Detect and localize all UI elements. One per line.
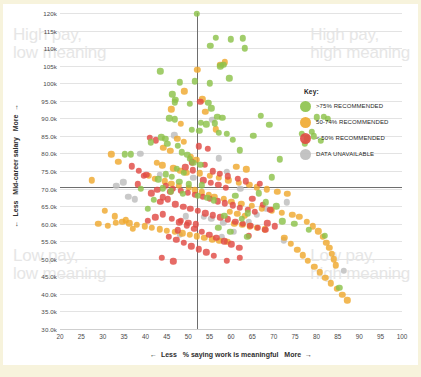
data-point	[148, 190, 154, 196]
data-point	[196, 246, 202, 252]
data-point	[277, 156, 283, 162]
data-point	[202, 210, 208, 216]
data-point	[108, 151, 114, 157]
reference-line-horizontal	[60, 187, 402, 188]
gridline-horizontal	[60, 83, 402, 84]
data-point	[262, 227, 268, 233]
data-point	[268, 174, 274, 180]
data-point	[273, 203, 279, 209]
legend-item[interactable]: 50-74% RECOMMENDED	[300, 114, 418, 130]
y-axis-less-label: Less	[12, 201, 19, 217]
y-axis-tick-label: 55.0k	[19, 238, 57, 245]
y-axis-tick-label: 115k	[19, 27, 57, 34]
data-point	[120, 179, 126, 185]
data-point	[291, 221, 297, 227]
legend-swatch-icon	[300, 117, 311, 128]
data-point	[203, 121, 209, 127]
x-axis-tick-label: 75	[292, 333, 299, 340]
data-point	[168, 106, 174, 112]
gridline-horizontal	[60, 294, 402, 295]
data-point	[197, 99, 203, 105]
data-point	[236, 255, 242, 261]
gridline-horizontal	[60, 66, 402, 67]
data-point	[190, 160, 196, 166]
data-point	[247, 223, 253, 229]
y-axis-more-label: More	[12, 115, 19, 132]
legend-item-label: < 50% RECOMMENDED	[316, 135, 385, 141]
data-point	[216, 155, 222, 161]
data-point	[264, 220, 270, 226]
x-axis-less-label: Less	[161, 351, 177, 358]
data-point	[215, 224, 221, 230]
x-axis-tick-label: 30	[99, 333, 106, 340]
data-point	[137, 151, 143, 157]
legend-item-label: >75% RECOMMENDED	[316, 103, 383, 109]
data-point	[233, 164, 239, 170]
data-point	[127, 151, 133, 157]
y-axis-tick-label: 110k	[19, 45, 57, 52]
data-point	[209, 168, 215, 174]
data-point	[245, 210, 251, 216]
data-point	[168, 216, 174, 222]
y-axis-tick-label: 35.0k	[19, 308, 57, 315]
data-point	[197, 170, 203, 176]
x-axis-tick-label: 85	[334, 333, 341, 340]
x-axis-tick-label: 40	[142, 333, 149, 340]
data-point	[274, 189, 280, 195]
x-axis-tick-label: 45	[163, 333, 170, 340]
x-axis-tick-label: 90	[356, 333, 363, 340]
data-point	[187, 206, 193, 212]
data-point	[185, 220, 191, 226]
data-point	[288, 241, 294, 247]
x-axis-label-text: % saying work is meaningful	[183, 351, 279, 358]
data-point	[190, 174, 196, 180]
data-point	[180, 138, 186, 144]
legend-item[interactable]: < 50% RECOMMENDED	[300, 130, 418, 146]
data-point	[159, 211, 165, 217]
data-point	[195, 143, 201, 149]
data-point	[193, 221, 199, 227]
y-axis-title: ← Less Mid-career salary More →	[12, 6, 19, 326]
data-point	[208, 105, 214, 111]
data-point	[230, 137, 236, 143]
data-point	[217, 171, 223, 177]
data-point	[159, 255, 165, 261]
y-axis-tick-label: 45.0k	[19, 273, 57, 280]
data-point	[132, 196, 138, 202]
x-axis-tick-label: 50	[185, 333, 192, 340]
data-point	[197, 162, 203, 168]
data-point	[182, 213, 188, 219]
y-axis-tick-label: 90.0k	[19, 115, 57, 122]
y-axis-arrow-more: →	[12, 104, 19, 115]
data-point	[341, 268, 347, 274]
data-point	[249, 196, 255, 202]
legend-item[interactable]: DATA UNAVAILABLE	[300, 146, 418, 162]
x-axis-tick-label: 100	[397, 333, 408, 340]
data-point	[147, 139, 153, 145]
data-point	[205, 146, 211, 152]
data-point	[112, 213, 118, 219]
data-point	[283, 199, 289, 205]
data-point	[141, 223, 147, 229]
data-point	[152, 214, 158, 220]
data-point	[244, 234, 250, 240]
data-point	[306, 227, 312, 233]
data-point	[237, 185, 243, 191]
data-point	[166, 233, 172, 239]
data-point	[250, 133, 256, 139]
gridline-horizontal	[60, 31, 402, 32]
data-point	[195, 208, 201, 214]
data-point	[328, 280, 334, 286]
data-point	[228, 241, 234, 247]
data-point	[322, 233, 328, 239]
y-axis-tick-label: 50.0k	[19, 255, 57, 262]
x-axis-tick-labels: 20253035404550556065707580859095100	[60, 333, 402, 345]
data-point	[176, 79, 182, 85]
legend-item[interactable]: >75% RECOMMENDED	[300, 98, 418, 114]
data-point	[213, 34, 219, 40]
gridline-horizontal	[60, 13, 402, 14]
x-axis-tick-label: 20	[56, 333, 63, 340]
legend-item-label: DATA UNAVAILABLE	[316, 151, 374, 157]
data-point	[232, 193, 238, 199]
data-point	[344, 297, 350, 303]
